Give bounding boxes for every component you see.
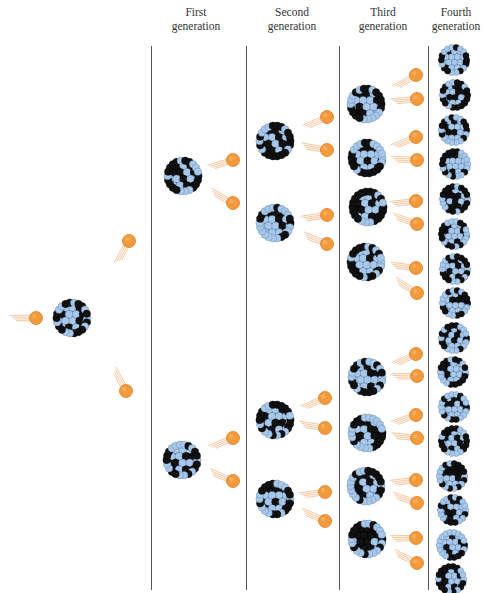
neutron-icon (391, 370, 424, 383)
neutron-icon (114, 235, 135, 263)
neutron-icon (390, 474, 423, 487)
neutron-icon (302, 508, 331, 527)
nucleus-icon (349, 188, 387, 226)
nucleus-icon (256, 480, 294, 518)
nucleus-icon (347, 85, 385, 123)
neutron-icon (299, 486, 332, 499)
nucleus-icon (435, 563, 467, 593)
nucleus-icon (256, 122, 294, 160)
nucleus-icon (348, 139, 386, 177)
nucleus-icon (438, 322, 470, 353)
neutron-icon (302, 111, 333, 128)
neutron-icon (300, 392, 331, 409)
neutron-icon (393, 213, 423, 231)
neutron-icon (390, 195, 423, 208)
neutron-icon (391, 432, 423, 445)
nucleus-icon (438, 44, 470, 75)
nucleus-icon (256, 401, 294, 439)
particles-layer (0, 0, 482, 593)
neutron-icon (208, 432, 239, 449)
nucleus-icon (437, 356, 469, 387)
nucleus-icon (439, 253, 471, 284)
neutron-icon (210, 469, 240, 488)
neutron-icon (302, 143, 334, 157)
neutron-icon (207, 154, 239, 169)
neutron-icon (304, 232, 334, 251)
nucleus-icon (436, 529, 468, 560)
neutron-icon (391, 348, 422, 365)
chain-reaction-diagram: First generation Second generation Third… (0, 0, 482, 593)
nucleus-icon (439, 183, 471, 214)
neutron-icon (390, 532, 423, 545)
nucleus-icon (347, 243, 385, 281)
neutron-icon (391, 154, 423, 167)
nucleus-icon (438, 114, 470, 145)
nucleus-icon (347, 467, 385, 505)
nucleus-icon (53, 299, 91, 337)
nucleus-icon (438, 425, 470, 456)
nucleus-icon (439, 287, 471, 318)
neutron-icon (396, 277, 423, 299)
neutron-icon (10, 312, 43, 325)
neutron-icon (301, 209, 334, 222)
nucleus-icon (163, 441, 201, 479)
nucleus-icon (438, 391, 470, 422)
nucleus-icon (348, 520, 386, 558)
nucleus-icon (164, 157, 202, 195)
neutron-icon (391, 131, 422, 148)
nucleus-icon (436, 460, 468, 491)
neutron-icon (391, 262, 423, 275)
neutron-icon (393, 492, 423, 509)
nucleus-icon (439, 148, 471, 179)
neutron-icon (114, 367, 132, 398)
nucleus-icon (348, 414, 386, 452)
neutron-icon (300, 421, 332, 434)
nucleus-icon (348, 358, 386, 396)
neutron-icon (391, 409, 423, 425)
neutron-icon (395, 549, 424, 569)
nucleus-icon (438, 218, 470, 249)
neutron-icon (391, 93, 424, 106)
nucleus-icon (256, 204, 294, 242)
nucleus-icon (439, 79, 471, 110)
neutron-icon (211, 188, 239, 209)
nucleus-icon (437, 494, 469, 525)
neutron-icon (392, 69, 422, 88)
